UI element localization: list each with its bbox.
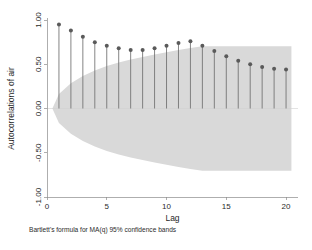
x-tick-label: 10 — [162, 202, 171, 211]
acf-point-marker — [153, 46, 157, 50]
acf-point-marker — [141, 48, 145, 52]
acf-point-marker — [117, 46, 121, 50]
y-tick-label: 0.50 — [34, 56, 43, 72]
x-axis-title: Lag — [165, 213, 179, 223]
y-tick-label: -1.00 — [34, 187, 43, 206]
acf-point-marker — [105, 44, 109, 48]
acf-point-marker — [57, 22, 61, 26]
acf-point-marker — [260, 65, 264, 69]
y-tick-label: -0.50 — [34, 143, 43, 162]
acf-point-marker — [248, 62, 252, 66]
chart-footnote: Bartlett's formula for MA(q) 95% confide… — [29, 226, 177, 234]
acf-point-marker — [284, 68, 288, 72]
x-axis-ticks-group: 05101520 — [45, 197, 291, 211]
x-tick-label: 5 — [105, 202, 110, 211]
acf-point-marker — [236, 59, 240, 63]
acf-point-marker — [224, 54, 228, 58]
y-tick-label: 0.00 — [34, 100, 43, 116]
x-tick-label: 20 — [282, 202, 291, 211]
acf-plot-svg: -1.00-0.500.000.501.0005101520LagAutocor… — [0, 0, 312, 250]
acf-point-marker — [129, 48, 133, 52]
x-tick-label: 0 — [45, 202, 50, 211]
acf-chart-figure: -1.00-0.500.000.501.0005101520LagAutocor… — [0, 0, 312, 250]
acf-point-marker — [69, 29, 73, 33]
y-tick-label: 1.00 — [34, 12, 43, 28]
acf-point-marker — [272, 67, 276, 71]
acf-point-marker — [188, 39, 192, 43]
acf-point-marker — [176, 41, 180, 45]
acf-point-marker — [212, 49, 216, 53]
acf-point-marker — [81, 35, 85, 39]
y-axis-title: Autocorrelations of air — [6, 67, 16, 150]
acf-point-marker — [165, 44, 169, 48]
y-axis-ticks-group: -1.00-0.500.000.501.00 — [34, 12, 47, 206]
acf-point-marker — [200, 44, 204, 48]
acf-point-marker — [93, 40, 97, 44]
x-tick-label: 15 — [222, 202, 231, 211]
